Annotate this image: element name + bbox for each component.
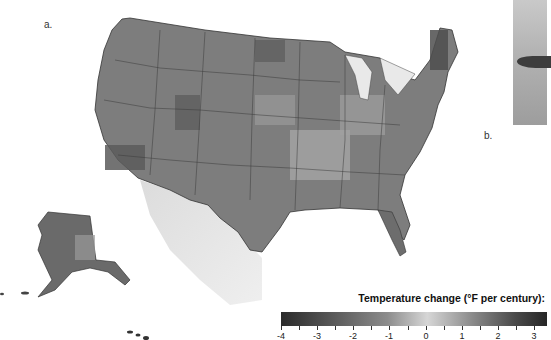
hawaii (127, 331, 149, 340)
tick-mark (480, 326, 481, 330)
tick-label: -4 (277, 331, 285, 340)
colorbar-ticks: -4 -3 -2 -1 0 1 2 3 (281, 326, 547, 340)
colorbar (281, 312, 547, 326)
tick-label: -1 (385, 331, 393, 340)
tick-mark (335, 326, 336, 330)
tick-label: -2 (349, 331, 357, 340)
tick-mark (462, 326, 463, 330)
tick-mark (389, 326, 390, 330)
tick-label: 3 (531, 331, 536, 340)
tick-mark (353, 326, 354, 330)
tick-mark (444, 326, 445, 330)
tick-label: -3 (313, 331, 321, 340)
tick-mark (371, 326, 372, 330)
tick-mark (498, 326, 499, 330)
tick-mark (426, 326, 427, 330)
tick-label: 0 (423, 331, 428, 340)
legend-title: Temperature change (°F per century): (340, 292, 545, 304)
tick-label: 2 (495, 331, 500, 340)
tick-mark (317, 326, 318, 330)
tick-mark (408, 326, 409, 330)
tick-label: 1 (459, 331, 464, 340)
tick-mark (516, 326, 517, 330)
tick-mark (534, 326, 535, 330)
tick-mark (281, 326, 282, 330)
aleutian-islands (0, 292, 29, 296)
tick-mark (299, 326, 300, 330)
